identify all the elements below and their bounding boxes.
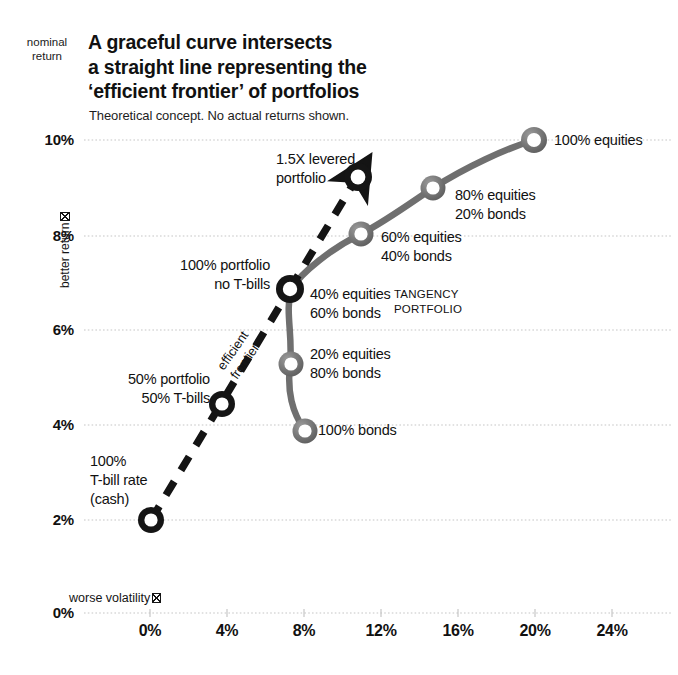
x-tick-marks <box>150 609 612 617</box>
annotation-100-equities: 100% equities <box>554 131 643 150</box>
annotation-100-portfolio: 100% portfolio no T-bills <box>118 256 270 294</box>
y-tick-6: 6% <box>18 321 74 338</box>
x-tick-12: 12% <box>351 622 411 640</box>
x-tick-16: 16% <box>428 622 488 640</box>
x-axis-title-text: worse volatility <box>69 591 150 605</box>
chart-page: nominal return A graceful curve intersec… <box>0 0 678 675</box>
annotation-100-bonds: 100% bonds <box>318 421 397 440</box>
x-tick-20: 20% <box>505 622 565 640</box>
annotation-levered-portfolio: 1.5X levered portfolio <box>276 150 355 188</box>
annotation-100-tbill-cash: 100% T-bill rate (cash) <box>90 452 147 509</box>
annotation-50-portfolio: 50% portfolio 50% T-bills <box>58 370 210 408</box>
x-tick-0: 0% <box>120 622 180 640</box>
tofu-box-icon <box>60 212 70 221</box>
tofu-box-icon <box>152 593 161 603</box>
annotation-tangency-portfolio: TANGENCY PORTFOLIO <box>394 287 462 317</box>
y-tick-2: 2% <box>18 511 74 528</box>
x-tick-4: 4% <box>197 622 257 640</box>
annotation-80-equities: 80% equities 20% bonds <box>455 186 536 224</box>
y-tick-10: 10% <box>18 131 74 148</box>
x-tick-8: 8% <box>274 622 334 640</box>
chart-plot <box>0 0 678 675</box>
annotation-60-equities: 60% equities 40% bonds <box>381 228 462 266</box>
y-tick-0: 0% <box>18 604 74 621</box>
annotation-20-equities: 20% equities 80% bonds <box>310 345 391 383</box>
capital-market-line-levered <box>290 186 352 289</box>
y-tick-4: 4% <box>18 416 74 433</box>
annotation-40-equities: 40% equities 60% bonds <box>310 285 391 323</box>
y-axis-title: better return <box>58 158 72 288</box>
x-axis-title: worse volatility <box>69 591 161 605</box>
x-tick-24: 24% <box>582 622 642 640</box>
y-axis-title-text: better return <box>58 223 72 288</box>
